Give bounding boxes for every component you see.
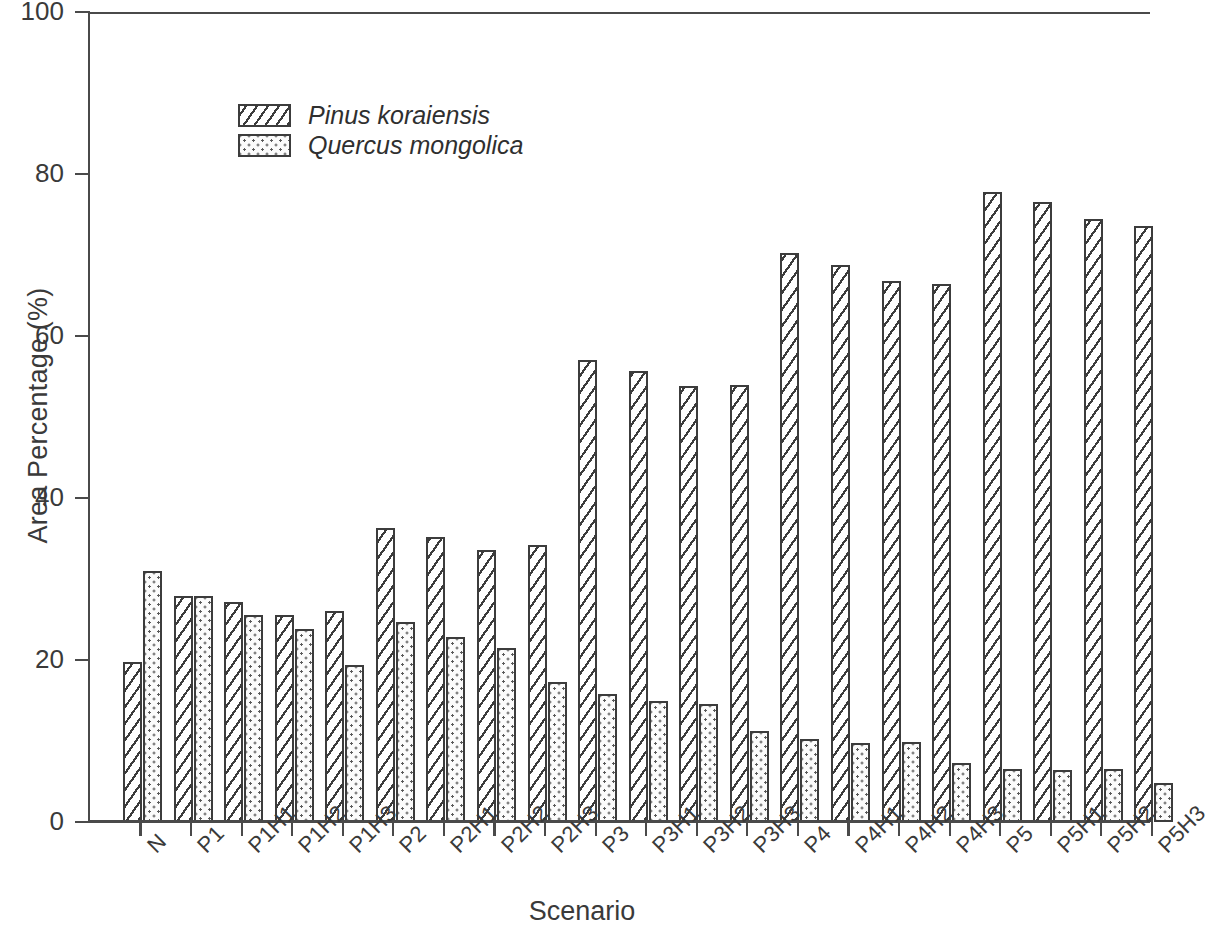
bar-P3H1-quercus	[649, 701, 668, 822]
x-tick-P2	[392, 820, 394, 836]
x-tick-P4H3	[949, 820, 951, 836]
legend-swatch-quercus-icon	[238, 134, 291, 157]
bar-P1H1-quercus	[244, 615, 263, 822]
bar-P4H1-quercus	[851, 743, 870, 822]
bar-P5H3-pinus	[1134, 226, 1153, 822]
bar-P4H3-pinus	[932, 284, 951, 822]
bar-P3H3-quercus	[750, 731, 769, 822]
bar-P1H1-pinus	[224, 602, 243, 822]
bar-P5H1-pinus	[1033, 202, 1052, 822]
bar-P5H2-quercus	[1104, 769, 1123, 822]
bar-P3H3-pinus	[730, 385, 749, 822]
bar-P2H3-quercus	[548, 682, 567, 822]
legend-label-pinus: Pinus koraiensis	[308, 101, 490, 130]
legend-label-quercus: Quercus mongolica	[308, 131, 523, 160]
x-tick-P2H2	[493, 820, 495, 836]
chart-legend: Pinus koraiensis Quercus mongolica	[238, 102, 523, 162]
bar-P1-pinus	[174, 596, 193, 822]
bar-P2H1-pinus	[426, 537, 445, 822]
x-tick-P4H2	[898, 820, 900, 836]
bar-P1H2-quercus	[295, 629, 314, 822]
x-tick-P4	[797, 820, 799, 836]
bar-P5-quercus	[1003, 769, 1022, 822]
bar-P1H3-quercus	[345, 665, 364, 822]
bar-P3H1-pinus	[629, 371, 648, 822]
legend-item-quercus: Quercus mongolica	[238, 132, 523, 159]
x-tick-P3H3	[746, 820, 748, 836]
bar-P3H2-quercus	[699, 704, 718, 822]
bar-P4-pinus	[780, 253, 799, 822]
bar-P4-quercus	[800, 739, 819, 822]
y-tick-60: 60	[75, 335, 90, 337]
x-tick-P4H1	[847, 820, 849, 836]
bar-P2-quercus	[396, 622, 415, 822]
y-tick-label: 100	[21, 0, 64, 26]
y-tick-40: 40	[75, 497, 90, 499]
x-tick-P5H3	[1151, 820, 1153, 836]
x-tick-P2H1	[443, 820, 445, 836]
x-tick-P1H1	[241, 820, 243, 836]
bar-P4H1-pinus	[831, 265, 850, 822]
x-axis-line: NP1P1H1P1H2P1H3P2P2H1P2H2P2H3P3P3H1P3H2P…	[88, 820, 1150, 823]
x-tick-P5H1	[1050, 820, 1052, 836]
y-tick-label: 20	[35, 643, 64, 674]
x-tick-P3H1	[645, 820, 647, 836]
legend-swatch-pinus-icon	[238, 104, 291, 127]
x-tick-P3H2	[696, 820, 698, 836]
bar-P1-quercus	[194, 596, 213, 822]
bar-P5H2-pinus	[1084, 219, 1103, 822]
bar-P4H2-quercus	[902, 742, 921, 822]
bar-P3H2-pinus	[679, 386, 698, 822]
x-tick-label-P1: P1	[192, 821, 230, 859]
bar-P2H3-pinus	[528, 545, 547, 822]
bar-P4H3-quercus	[952, 763, 971, 822]
bar-N-pinus	[123, 662, 142, 822]
y-axis-title: Area Percentage (%)	[23, 266, 54, 566]
legend-item-pinus: Pinus koraiensis	[238, 102, 523, 129]
y-tick-100: 100	[75, 11, 90, 13]
x-tick-label-P5: P5	[1001, 821, 1039, 859]
bar-P4H2-pinus	[882, 281, 901, 822]
y-tick-label: 40	[35, 481, 64, 512]
x-tick-P1	[190, 820, 192, 836]
x-tick-label-P4: P4	[799, 821, 837, 859]
bar-P3-quercus	[598, 694, 617, 822]
bar-P2H2-pinus	[477, 550, 496, 822]
y-tick-80: 80	[75, 173, 90, 175]
x-tick-label-N: N	[142, 829, 172, 859]
y-tick-label: 0	[50, 805, 64, 836]
plot-area: 020406080100 Pinus koraiensis Quercus mo…	[88, 12, 1150, 822]
y-tick-label: 80	[35, 157, 64, 188]
x-tick-P1H3	[342, 820, 344, 836]
bar-P3-pinus	[578, 360, 597, 823]
y-tick-label: 60	[35, 319, 64, 350]
x-tick-N	[139, 820, 141, 836]
x-tick-P2H3	[544, 820, 546, 836]
bar-P2-pinus	[376, 528, 395, 822]
x-axis-title: Scenario	[0, 896, 1164, 927]
x-tick-label-P3: P3	[597, 821, 635, 859]
bar-P5H1-quercus	[1053, 770, 1072, 822]
bar-P2H1-quercus	[446, 637, 465, 822]
x-tick-P1H2	[291, 820, 293, 836]
x-tick-label-P2: P2	[394, 821, 432, 859]
bar-P1H3-pinus	[325, 611, 344, 822]
bar-P2H2-quercus	[497, 648, 516, 822]
y-tick-20: 20	[75, 659, 90, 661]
bar-P5-pinus	[983, 192, 1002, 822]
x-tick-P5H2	[1100, 820, 1102, 836]
x-tick-P3	[595, 820, 597, 836]
bar-P1H2-pinus	[275, 615, 294, 822]
bar-N-quercus	[143, 571, 162, 822]
x-tick-P5	[999, 820, 1001, 836]
